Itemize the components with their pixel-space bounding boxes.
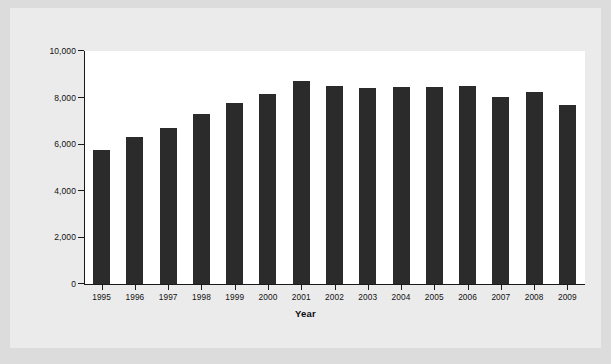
x-tick-label: 2001 bbox=[292, 292, 311, 302]
x-tick-label: 2005 bbox=[425, 292, 444, 302]
bar-2005 bbox=[426, 87, 443, 284]
x-tick-label: 2000 bbox=[259, 292, 278, 302]
x-tick-mark bbox=[102, 285, 103, 290]
x-tick-mark bbox=[235, 285, 236, 290]
y-tick-label: 4,000 bbox=[28, 186, 76, 196]
figure-edge-bottom bbox=[0, 348, 611, 364]
bar-1997 bbox=[160, 128, 177, 284]
bar-2008 bbox=[526, 92, 543, 284]
y-tick-mark bbox=[78, 50, 84, 51]
y-tick-mark bbox=[78, 97, 84, 98]
bar-1999 bbox=[226, 103, 243, 285]
x-tick-mark bbox=[135, 285, 136, 290]
x-tick-label: 2004 bbox=[392, 292, 411, 302]
x-tick-label: 2007 bbox=[491, 292, 510, 302]
x-tick-mark bbox=[335, 285, 336, 290]
bar-2001 bbox=[293, 81, 310, 284]
bar-2009 bbox=[559, 105, 576, 284]
x-tick-mark bbox=[434, 285, 435, 290]
y-tick-label: 0 bbox=[28, 279, 76, 289]
x-tick-mark bbox=[301, 285, 302, 290]
y-tick-label: 10,000 bbox=[28, 46, 76, 56]
chart-figure: 02,0004,0006,0008,00010,000 199519961997… bbox=[0, 0, 611, 364]
figure-edge-top bbox=[0, 0, 611, 8]
x-tick-label: 1995 bbox=[92, 292, 111, 302]
y-tick-mark bbox=[78, 144, 84, 145]
x-tick-label: 1997 bbox=[159, 292, 178, 302]
bars-layer bbox=[85, 51, 584, 284]
x-tick-label: 1999 bbox=[225, 292, 244, 302]
x-tick-label: 2009 bbox=[558, 292, 577, 302]
x-tick-label: 2003 bbox=[358, 292, 377, 302]
x-tick-mark bbox=[468, 285, 469, 290]
bar-2002 bbox=[326, 86, 343, 284]
x-tick-label: 2006 bbox=[458, 292, 477, 302]
x-tick-mark bbox=[567, 285, 568, 290]
x-tick-label: 1998 bbox=[192, 292, 211, 302]
y-tick-mark bbox=[78, 190, 84, 191]
y-tick-mark bbox=[78, 283, 84, 284]
bar-1998 bbox=[193, 114, 210, 284]
y-tick-mark bbox=[78, 237, 84, 238]
x-tick-mark bbox=[534, 285, 535, 290]
bar-2007 bbox=[492, 97, 509, 284]
x-axis-title: Year bbox=[0, 308, 611, 319]
bar-2006 bbox=[459, 86, 476, 284]
x-tick-mark bbox=[401, 285, 402, 290]
x-tick-label: 1996 bbox=[125, 292, 144, 302]
x-tick-mark bbox=[268, 285, 269, 290]
x-tick-label: 2008 bbox=[525, 292, 544, 302]
x-tick-label: 2002 bbox=[325, 292, 344, 302]
bar-1995 bbox=[93, 150, 110, 284]
y-tick-label: 6,000 bbox=[28, 139, 76, 149]
x-tick-mark bbox=[168, 285, 169, 290]
bar-2004 bbox=[393, 87, 410, 284]
bar-1996 bbox=[126, 137, 143, 284]
bar-2003 bbox=[359, 88, 376, 284]
y-tick-label: 8,000 bbox=[28, 93, 76, 103]
x-tick-mark bbox=[501, 285, 502, 290]
y-tick-label: 2,000 bbox=[28, 232, 76, 242]
x-tick-mark bbox=[201, 285, 202, 290]
bar-2000 bbox=[259, 94, 276, 284]
x-tick-mark bbox=[368, 285, 369, 290]
